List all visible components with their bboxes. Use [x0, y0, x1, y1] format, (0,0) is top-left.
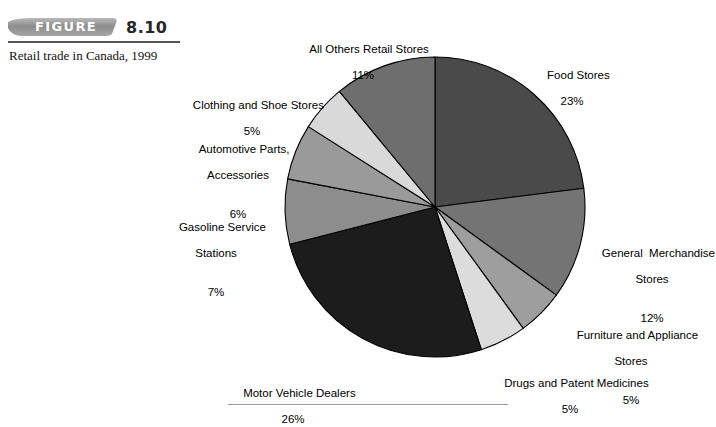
slice-label-percent: 26%	[198, 413, 388, 426]
slice-label-text: Drugs and Patent Medicines	[504, 377, 648, 389]
slice-label-motor-vehicle-dealers: Motor Vehicle Dealers 26%	[198, 374, 388, 427]
slice-label-text: General Merchandise	[602, 247, 715, 259]
slice-label-percent: 23%	[512, 95, 632, 108]
slice-label-text-line2: Stores	[588, 273, 716, 286]
slice-label-percent: 7%	[148, 286, 284, 299]
slice-label-drugs-and-patent-medicines: Drugs and Patent Medicines 5%	[470, 364, 670, 427]
slice-label-text: Motor Vehicle Dealers	[243, 387, 356, 399]
slice-label-percent: 6%	[168, 208, 308, 221]
slice-label-clothing-and-shoe-stores: Clothing and Shoe Stores 5%	[160, 86, 344, 164]
slice-label-text: Furniture and Appliance	[577, 329, 698, 341]
slice-label-text: All Others Retail Stores	[309, 43, 429, 55]
slice-label-text-line2: Stations	[148, 247, 284, 260]
slice-label-text: Clothing and Shoe Stores	[193, 99, 324, 111]
slice-label-food-stores: Food Stores 23%	[512, 56, 632, 134]
slice-label-text-line2: Accessories	[168, 169, 308, 182]
slice-label-percent: 5%	[160, 125, 344, 138]
slice-label-percent: 11%	[268, 69, 458, 82]
bottom-divider	[228, 404, 508, 405]
slice-label-text: Food Stores	[547, 69, 610, 81]
